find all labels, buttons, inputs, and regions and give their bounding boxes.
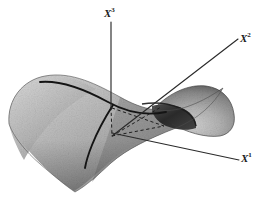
axis-label-x1: X1 [241, 153, 252, 164]
axis-label-x2: X2 [240, 33, 251, 44]
figure-canvas [0, 0, 270, 202]
axis-label-x3-sup: 3 [111, 6, 115, 14]
surface-edge-shadow [0, 140, 270, 202]
axis-label-x3: X3 [104, 8, 115, 19]
axis-label-x2-sup: 2 [247, 31, 251, 39]
saddle-surface-figure: X3 X2 X1 [0, 0, 270, 202]
saddle-surface [0, 75, 270, 202]
axis-label-x1-sup: 1 [248, 151, 252, 159]
